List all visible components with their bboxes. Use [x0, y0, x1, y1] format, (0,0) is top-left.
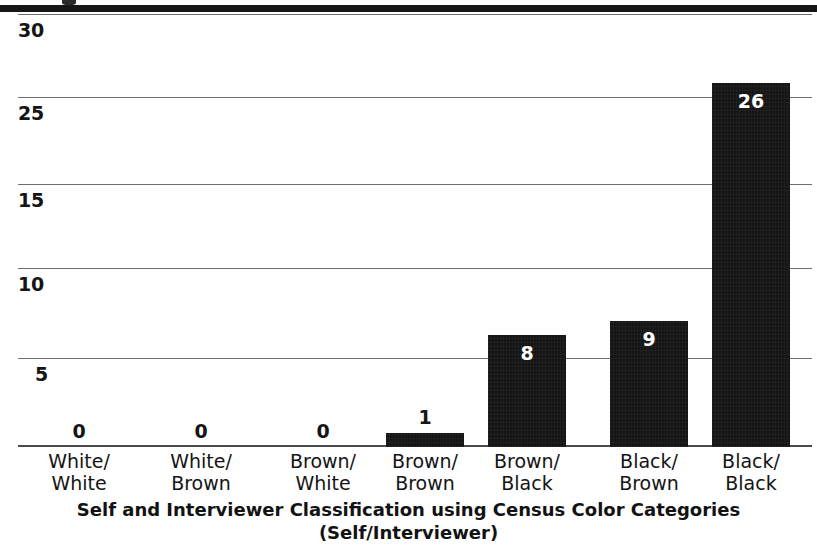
- figure-canvas: 302515105 00018926 White/WhiteWhite/Brow…: [0, 0, 817, 547]
- bar-value-label: 0: [162, 422, 240, 441]
- x-axis-title-line2: (Self/Interviewer): [0, 521, 817, 544]
- bar[interactable]: [712, 83, 790, 447]
- header-rule: [0, 5, 817, 12]
- bar[interactable]: [386, 433, 464, 447]
- x-axis-tick-labels: White/WhiteWhite/BrownBrown/WhiteBrown/B…: [18, 450, 812, 498]
- bar-value-label: 8: [488, 344, 566, 363]
- x-axis-category-label: Black/Black: [691, 450, 811, 494]
- x-axis-category-label-line: White/: [141, 450, 261, 472]
- bar-value-label: 0: [284, 422, 362, 441]
- bar-slot: 9: [610, 14, 688, 447]
- bar-slot: 26: [712, 14, 790, 447]
- bar-slot: 8: [488, 14, 566, 447]
- x-axis-category-label-line: White: [19, 472, 139, 494]
- bar-value-label: 26: [712, 92, 790, 111]
- bar-slot: 0: [162, 14, 240, 447]
- x-axis-title: Self and Interviewer Classification usin…: [0, 498, 817, 544]
- bar-value-label: 0: [40, 422, 118, 441]
- clipped-title-fragment: [62, 0, 76, 5]
- x-axis-category-label-line: Brown: [141, 472, 261, 494]
- x-axis-category-label-line: Brown/: [467, 450, 587, 472]
- bar-slot: 0: [284, 14, 362, 447]
- x-axis-category-label-line: Black/: [691, 450, 811, 472]
- bar-slot: 0: [40, 14, 118, 447]
- bar-slot: 1: [386, 14, 464, 447]
- x-axis-category-label: White/Brown: [141, 450, 261, 494]
- x-axis-category-label-line: Black: [691, 472, 811, 494]
- x-axis-category-label-line: Black: [467, 472, 587, 494]
- x-axis-category-label: Brown/Black: [467, 450, 587, 494]
- x-axis-title-line1: Self and Interviewer Classification usin…: [77, 499, 740, 520]
- x-axis-category-label: White/White: [19, 450, 139, 494]
- bar-value-label: 9: [610, 330, 688, 349]
- bar-series: 00018926: [18, 14, 812, 447]
- bar-value-label: 1: [386, 408, 464, 427]
- x-axis-category-label-line: White/: [19, 450, 139, 472]
